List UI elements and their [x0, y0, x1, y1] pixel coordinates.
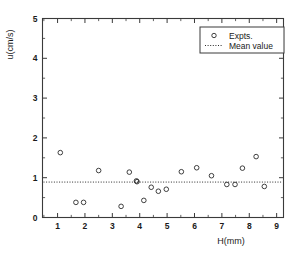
x-tick-label: 5: [165, 221, 170, 231]
x-tick-label: 8: [247, 221, 252, 231]
x-tick-label: 6: [192, 221, 197, 231]
y-tick-label: 4: [33, 53, 38, 63]
y-tick-label: 5: [33, 14, 38, 24]
y-axis-title: u(cm/s): [5, 30, 15, 60]
y-tick-label: 3: [33, 93, 38, 103]
x-tick-label: 7: [220, 221, 225, 231]
legend: Expts. Mean value: [200, 27, 284, 53]
legend-label-expts: Expts.: [229, 31, 253, 41]
y-tick-label: 2: [33, 133, 38, 143]
x-tick-label: 2: [83, 221, 88, 231]
y-tick-label: 1: [33, 173, 38, 183]
x-tick-label: 9: [274, 221, 279, 231]
x-axis-title: H(mm): [217, 236, 245, 246]
y-tick-label: 0: [33, 213, 38, 223]
chart-figure: 123456789 012345 H(mm) u(cm/s) Expts. Me…: [0, 0, 301, 262]
legend-label-mean-value: Mean value: [229, 41, 273, 51]
x-tick-label: 1: [55, 221, 60, 231]
x-tick-label: 4: [137, 221, 142, 231]
scatter-plot-svg: 123456789 012345 H(mm) u(cm/s) Expts. Me…: [0, 0, 301, 262]
x-tick-label: 3: [110, 221, 115, 231]
